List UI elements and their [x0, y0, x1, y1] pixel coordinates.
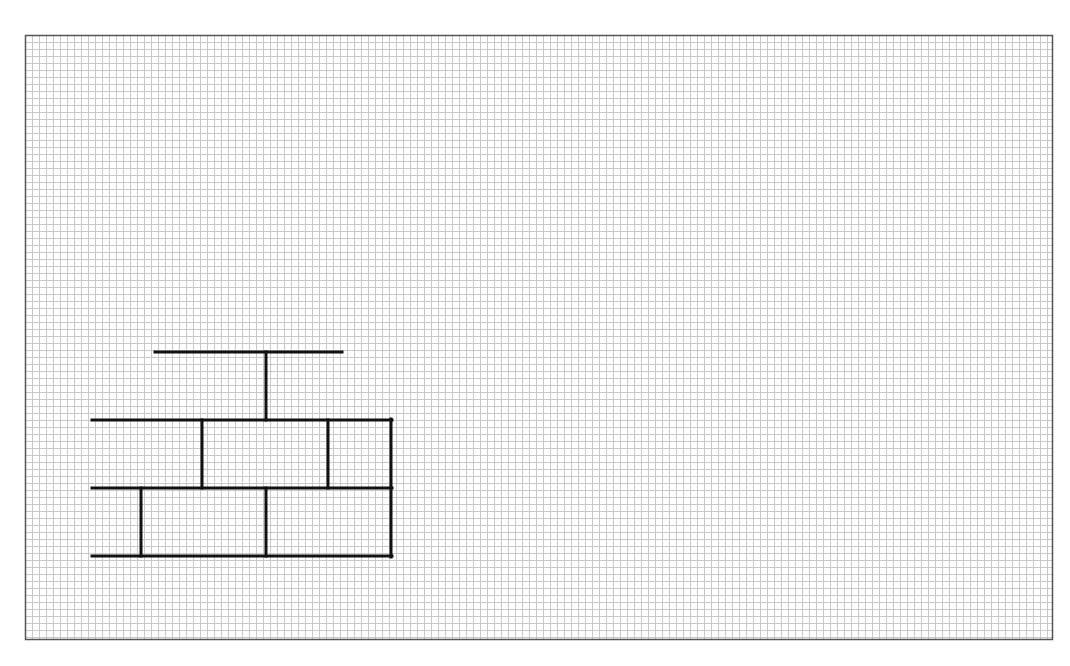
page-background [0, 0, 1070, 666]
graph-paper-canvas [0, 0, 1070, 666]
